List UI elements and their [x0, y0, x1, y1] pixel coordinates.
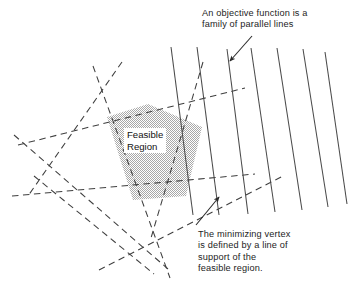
objective-function-annotation: An objective function is a family of par… [202, 8, 308, 31]
minimizing-vertex-annotation: The minimizing vertex is defined by a li… [198, 229, 291, 275]
diagram-root: Feasible Region An objective function is… [0, 0, 349, 292]
feasible-region-figure [0, 0, 349, 292]
feasible-region-label: Feasible Region [124, 128, 166, 153]
